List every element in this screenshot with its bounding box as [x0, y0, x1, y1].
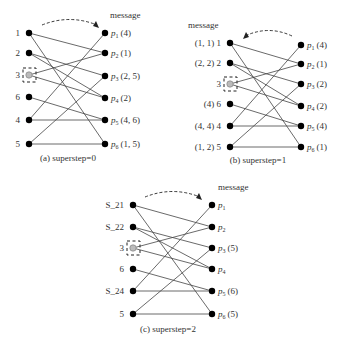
- partition-node: [209, 202, 215, 208]
- message-label: message: [110, 10, 141, 20]
- partition-node: [102, 30, 108, 36]
- vertex-label: 2: [16, 48, 21, 58]
- vertex-node: [130, 224, 136, 230]
- partition-label: p3(2): [306, 79, 327, 90]
- arrowhead-icon: [93, 21, 99, 28]
- partition-node: [209, 224, 215, 230]
- vertex-node-highlighted: [26, 72, 32, 78]
- partition-label: p6(1, 5): [110, 139, 140, 150]
- partition-label: p5(6): [217, 286, 238, 297]
- partition-label: p6(5): [217, 309, 238, 320]
- partition-label: p4(2): [306, 101, 327, 112]
- vertex-label: 4: [16, 115, 21, 125]
- vertex-node-highlighted: [130, 245, 136, 251]
- edge-3-p4: [133, 248, 212, 269]
- partition-label: p2(1): [306, 59, 327, 70]
- vertex-label: 3: [120, 243, 125, 253]
- edge-3-p4: [230, 84, 301, 106]
- panel-caption: (c) superstep=2: [140, 324, 196, 334]
- partition-node: [298, 61, 304, 67]
- edge-4-p1: [133, 205, 212, 291]
- message-flow-arrow-icon: [42, 20, 97, 26]
- vertex-node: [130, 311, 136, 317]
- edge-6-p5: [29, 97, 105, 120]
- partition-node: [298, 103, 304, 109]
- edge-2-p4: [29, 53, 105, 98]
- vertex-node: [26, 30, 32, 36]
- partition-label: p1(4): [110, 28, 131, 39]
- partition-label: p3(2, 5): [110, 71, 140, 82]
- edge-1-p2: [133, 205, 212, 227]
- partition-node: [102, 95, 108, 101]
- vertex-label: 5: [120, 309, 125, 319]
- vertex-label: S_24: [105, 286, 124, 296]
- edge-4-p1: [29, 33, 105, 120]
- arrowhead-icon: [243, 32, 249, 39]
- partition-label: p6(1): [306, 142, 327, 153]
- partition-label: p4(2): [110, 93, 131, 104]
- vertex-label: S_21: [105, 200, 124, 210]
- vertex-label: (2, 2) 2: [195, 58, 221, 68]
- vertex-label: (4, 4) 4: [195, 121, 222, 131]
- vertex-node: [130, 266, 136, 272]
- partition-node: [298, 123, 304, 129]
- vertex-label: S_22: [105, 222, 124, 232]
- partition-node: [209, 245, 215, 251]
- message-label: message: [218, 182, 249, 192]
- vertex-node: [26, 117, 32, 123]
- panel-b: message(1, 1) 1(2, 2) 23(4) 6(4, 4) 4(1,…: [188, 20, 327, 165]
- partition-label: p3(5): [217, 243, 238, 254]
- vertex-node: [26, 94, 32, 100]
- partition-node: [209, 288, 215, 294]
- partition-label: p5(4, 6): [110, 115, 140, 126]
- edge-4-p1: [230, 45, 301, 126]
- partition-node: [102, 50, 108, 56]
- panel-a: message123645p1(4)p2(1)p3(2, 5)p4(2)p5(4…: [16, 10, 141, 163]
- partition-node: [209, 266, 215, 272]
- vertex-node: [26, 50, 32, 56]
- vertex-node: [227, 123, 233, 129]
- partition-node: [102, 73, 108, 79]
- partition-label: p5(4): [306, 121, 327, 132]
- arrowhead-icon: [196, 193, 202, 200]
- partition-node: [102, 141, 108, 147]
- message-flow-arrow-icon: [245, 31, 292, 37]
- vertex-node: [130, 288, 136, 294]
- vertex-node: [26, 141, 32, 147]
- partition-label: p4: [217, 264, 226, 275]
- vertex-label: (1, 1) 1: [195, 38, 221, 48]
- edge-6-p5: [133, 269, 212, 291]
- vertex-node: [130, 202, 136, 208]
- edge-2-p4: [230, 63, 301, 106]
- panel-caption: (b) superstep=1: [230, 155, 286, 165]
- vertex-label: 5: [16, 139, 21, 149]
- bipartite-superstep-figure: message123645p1(4)p2(1)p3(2, 5)p4(2)p5(4…: [0, 0, 340, 347]
- partition-label: p2(1): [110, 48, 131, 59]
- vertex-node-highlighted: [227, 81, 233, 87]
- partition-node: [298, 144, 304, 150]
- vertex-label: 6: [120, 264, 125, 274]
- partition-node: [102, 117, 108, 123]
- vertex-node: [227, 40, 233, 46]
- partition-node: [209, 311, 215, 317]
- partition-node: [298, 81, 304, 87]
- message-label: message: [188, 20, 219, 30]
- vertex-node: [227, 60, 233, 66]
- partition-label: p1: [217, 200, 226, 211]
- vertex-label: 3: [16, 70, 21, 80]
- vertex-label: (4) 6: [204, 99, 222, 109]
- vertex-node: [227, 101, 233, 107]
- panel-c: messageS_21S_2236S_245p1p2p3(5)p4p5(6)p6…: [105, 182, 248, 334]
- vertex-node: [227, 144, 233, 150]
- panel-caption: (a) superstep=0: [40, 153, 96, 163]
- message-flow-arrow-icon: [145, 192, 200, 198]
- partition-label: p1(4): [306, 40, 327, 51]
- vertex-label: 1: [16, 28, 21, 38]
- edge-5-p3: [133, 248, 212, 314]
- partition-node: [298, 42, 304, 48]
- edge-5-p3: [230, 84, 301, 147]
- vertex-label: 6: [16, 92, 21, 102]
- vertex-label: 3: [217, 79, 222, 89]
- edge-1-p2: [230, 43, 301, 64]
- edge-1-p6: [133, 205, 212, 314]
